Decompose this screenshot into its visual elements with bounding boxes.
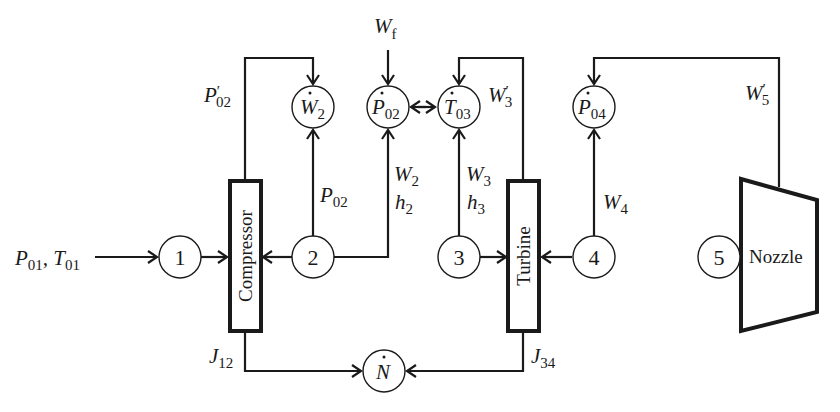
station-5: 5 — [698, 236, 740, 278]
compressor-label: Compressor — [235, 209, 256, 302]
nozzle-label: Nozzle — [749, 246, 803, 267]
w5-prime-arrow — [594, 58, 779, 187]
dot-accent — [381, 92, 384, 95]
node-p02-dot: P02 — [367, 86, 409, 128]
j12-arrow — [245, 332, 361, 371]
dot-accent — [451, 92, 454, 95]
station-1: 1 — [159, 236, 201, 278]
h3-label: h3 — [467, 190, 485, 217]
node-p04-dot: P04 — [573, 86, 615, 128]
j34-arrow — [407, 332, 523, 371]
w3-label: W3 — [466, 162, 491, 189]
nozzle-block: Nozzle — [741, 179, 817, 331]
svg-text:3: 3 — [454, 245, 465, 270]
dot-accent — [587, 92, 590, 95]
w2-label: W2 — [394, 162, 419, 189]
w5-prime-label: W′5 — [745, 81, 769, 108]
turbine-label: Turbine — [513, 226, 534, 285]
station-4: 4 — [573, 236, 615, 278]
w4-label: W4 — [603, 190, 629, 217]
j12-label: J12 — [209, 344, 233, 371]
p02-label: P02 — [319, 183, 348, 210]
svg-text:2: 2 — [308, 245, 319, 270]
svg-text:1: 1 — [175, 245, 186, 270]
j34-label: J34 — [531, 344, 556, 371]
dot-accent — [383, 356, 386, 359]
station-2: 2 — [292, 236, 334, 278]
connections — [95, 50, 779, 371]
h2-label: h2 — [395, 190, 413, 217]
p02-prime-label: P′02 — [203, 83, 231, 110]
fuel-label: Wf — [374, 14, 397, 42]
inlet-label: P01, T01 — [14, 246, 80, 273]
turbine-block: Turbine — [508, 181, 539, 331]
compressor-block: Compressor — [230, 181, 261, 331]
w3-prime-label: W′3 — [488, 83, 512, 110]
node-n-dot: N — [363, 350, 405, 392]
svg-text:5: 5 — [714, 245, 725, 270]
engine-diagram: Compressor Turbine Nozzle 1 2 3 4 5 W2 P… — [0, 0, 840, 412]
svg-text:N: N — [375, 360, 391, 384]
svg-text:4: 4 — [589, 245, 600, 270]
station-3: 3 — [438, 236, 480, 278]
node-w2-dot: W2 — [292, 86, 334, 128]
node-t03-dot: T03 — [438, 86, 480, 128]
dot-accent — [309, 92, 312, 95]
